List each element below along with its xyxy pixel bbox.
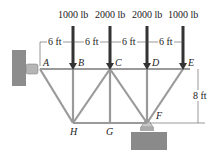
height-label: 8 ft xyxy=(193,90,207,101)
spacing-label: 6 ft xyxy=(84,36,100,47)
joint-label-g: G xyxy=(106,126,113,137)
joint-label-a: A xyxy=(43,57,49,68)
spacing-label: 6 ft xyxy=(158,36,174,47)
joint-label-c: C xyxy=(115,57,122,68)
joint-label-e: E xyxy=(188,57,194,68)
joint-label-d: D xyxy=(152,57,159,68)
joint-label-b: B xyxy=(78,57,84,68)
load-label: 2000 lb xyxy=(132,9,162,20)
spacing-label: 6 ft xyxy=(121,36,137,47)
load-label: 2000 lb xyxy=(95,9,125,20)
joint-label-h: H xyxy=(70,126,77,137)
load-label: 1000 lb xyxy=(168,9,198,20)
spacing-label: 6 ft xyxy=(47,36,63,47)
joint-label-f: F xyxy=(156,110,162,121)
load-label: 1000 lb xyxy=(58,9,88,20)
